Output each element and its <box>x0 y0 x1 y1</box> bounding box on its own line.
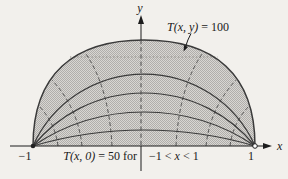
x-axis-arrowhead <box>263 143 272 149</box>
corner-dot-left <box>31 144 36 149</box>
y-axis-arrowhead <box>138 15 144 24</box>
bottom-condition-value: = 50 for <box>95 149 137 163</box>
x-tick-label-left: −1 <box>19 149 32 163</box>
x-tick-label-right: 1 <box>248 149 254 163</box>
interval-right: < 1 <box>180 149 199 163</box>
top-condition-function: T(x, y) <box>167 20 198 34</box>
x-axis-label: x <box>276 139 283 153</box>
diagram-canvas: y x T(x, y) = 100 T(x, 0) = 50 for −1 < … <box>0 0 288 179</box>
interval-left: −1 < <box>149 149 175 163</box>
label-arrow <box>186 34 191 47</box>
top-condition-value: = 100 <box>198 20 229 34</box>
bottom-boundary-condition-left: T(x, 0) = 50 for <box>63 149 137 163</box>
y-axis-label: y <box>136 1 143 15</box>
bottom-boundary-condition-right: −1 < x < 1 <box>149 149 199 163</box>
corner-dot-right <box>253 144 258 149</box>
top-boundary-condition: T(x, y) = 100 <box>167 20 229 34</box>
temperature-diagram: y x T(x, y) = 100 T(x, 0) = 50 for −1 < … <box>0 0 288 179</box>
bottom-condition-function: T(x, 0) <box>63 149 95 163</box>
